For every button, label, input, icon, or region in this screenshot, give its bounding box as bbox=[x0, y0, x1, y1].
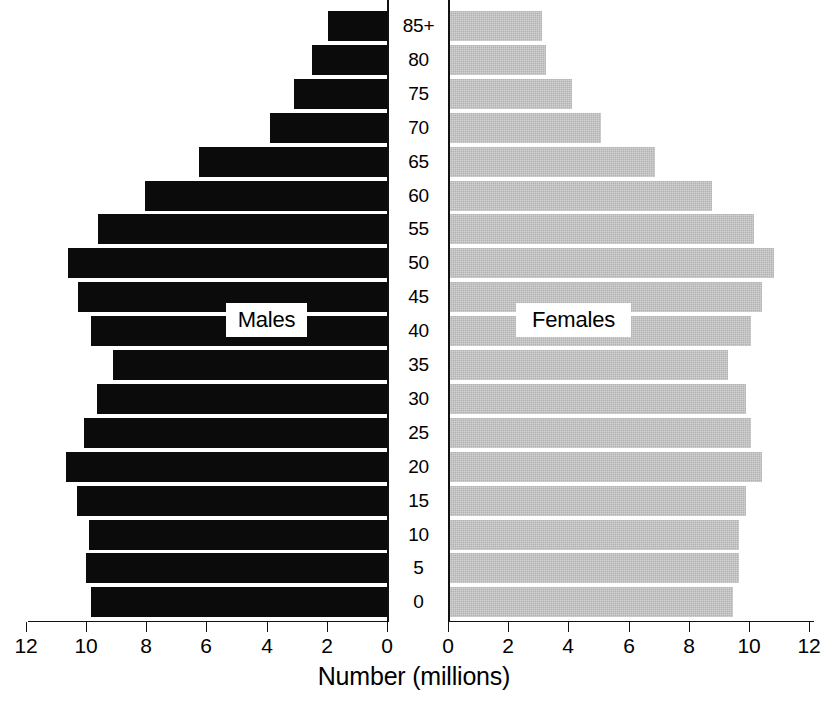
tick-label-male-12: 12 bbox=[6, 634, 46, 658]
bar-male-85plus bbox=[328, 11, 387, 41]
bar-male-5 bbox=[86, 553, 387, 583]
tick-female-8 bbox=[689, 622, 690, 632]
bar-male-70 bbox=[270, 113, 387, 143]
bar-female-75 bbox=[450, 79, 572, 109]
bar-female-65 bbox=[450, 147, 655, 177]
bar-female-25 bbox=[450, 418, 751, 448]
tick-male-4 bbox=[267, 622, 268, 632]
bar-female-85plus bbox=[450, 11, 542, 41]
bar-female-0 bbox=[450, 587, 733, 617]
bar-female-30 bbox=[450, 384, 746, 414]
series-label-females: Females bbox=[516, 303, 631, 337]
age-label-20: 20 bbox=[389, 456, 448, 478]
bar-male-60 bbox=[145, 181, 387, 211]
tick-female-0 bbox=[448, 622, 449, 632]
tick-label-female-2: 2 bbox=[488, 634, 528, 658]
bar-male-10 bbox=[89, 520, 387, 550]
bar-male-65 bbox=[199, 147, 387, 177]
age-label-80: 80 bbox=[389, 49, 448, 71]
series-label-males: Males bbox=[226, 303, 307, 337]
bar-female-70 bbox=[450, 113, 601, 143]
bar-female-50 bbox=[450, 248, 774, 278]
age-label-15: 15 bbox=[389, 490, 448, 512]
age-label-85plus: 85+ bbox=[389, 15, 448, 37]
tick-female-4 bbox=[568, 622, 569, 632]
bar-female-5 bbox=[450, 553, 739, 583]
tick-male-0 bbox=[387, 622, 388, 632]
bar-male-50 bbox=[68, 248, 387, 278]
tick-female-6 bbox=[629, 622, 630, 632]
male-x-axis-line bbox=[28, 621, 389, 622]
bar-female-20 bbox=[450, 452, 762, 482]
tick-label-male-6: 6 bbox=[186, 634, 226, 658]
tick-label-female-10: 10 bbox=[729, 634, 769, 658]
age-label-50: 50 bbox=[389, 252, 448, 274]
bar-male-20 bbox=[66, 452, 387, 482]
tick-label-female-6: 6 bbox=[609, 634, 649, 658]
age-label-5: 5 bbox=[389, 557, 448, 579]
age-label-40: 40 bbox=[389, 320, 448, 342]
age-label-0: 0 bbox=[389, 591, 448, 613]
female-x-axis-line bbox=[448, 621, 814, 622]
age-label-25: 25 bbox=[389, 422, 448, 444]
tick-male-12 bbox=[26, 622, 27, 632]
bar-male-0 bbox=[91, 587, 387, 617]
bar-female-55 bbox=[450, 214, 754, 244]
bar-male-75 bbox=[294, 79, 387, 109]
bar-female-15 bbox=[450, 486, 746, 516]
bar-female-10 bbox=[450, 520, 739, 550]
age-label-60: 60 bbox=[389, 185, 448, 207]
bar-male-30 bbox=[97, 384, 387, 414]
tick-label-male-0: 0 bbox=[367, 634, 407, 658]
tick-female-2 bbox=[508, 622, 509, 632]
age-label-35: 35 bbox=[389, 354, 448, 376]
bar-female-35 bbox=[450, 350, 728, 380]
bar-male-35 bbox=[113, 350, 387, 380]
tick-label-female-0: 0 bbox=[428, 634, 468, 658]
tick-label-male-2: 2 bbox=[307, 634, 347, 658]
tick-male-2 bbox=[327, 622, 328, 632]
age-label-10: 10 bbox=[389, 524, 448, 546]
tick-label-female-12: 12 bbox=[789, 634, 828, 658]
tick-female-10 bbox=[749, 622, 750, 632]
age-label-30: 30 bbox=[389, 388, 448, 410]
tick-label-male-4: 4 bbox=[247, 634, 287, 658]
bar-male-55 bbox=[98, 214, 387, 244]
tick-male-6 bbox=[206, 622, 207, 632]
tick-label-male-8: 8 bbox=[126, 634, 166, 658]
population-pyramid-chart: 85+80757065605550454035302520151050 0246… bbox=[0, 0, 828, 709]
tick-male-10 bbox=[86, 622, 87, 632]
age-label-75: 75 bbox=[389, 83, 448, 105]
age-label-70: 70 bbox=[389, 117, 448, 139]
bar-female-60 bbox=[450, 181, 712, 211]
tick-label-male-10: 10 bbox=[66, 634, 106, 658]
bar-male-80 bbox=[312, 45, 387, 75]
age-label-55: 55 bbox=[389, 218, 448, 240]
tick-label-female-8: 8 bbox=[669, 634, 709, 658]
tick-male-8 bbox=[146, 622, 147, 632]
age-label-65: 65 bbox=[389, 151, 448, 173]
tick-label-female-4: 4 bbox=[548, 634, 588, 658]
bar-female-80 bbox=[450, 45, 546, 75]
tick-female-12 bbox=[809, 622, 810, 632]
x-axis-title: Number (millions) bbox=[0, 662, 828, 691]
bar-male-15 bbox=[77, 486, 387, 516]
bar-male-25 bbox=[84, 418, 387, 448]
age-label-45: 45 bbox=[389, 286, 448, 308]
